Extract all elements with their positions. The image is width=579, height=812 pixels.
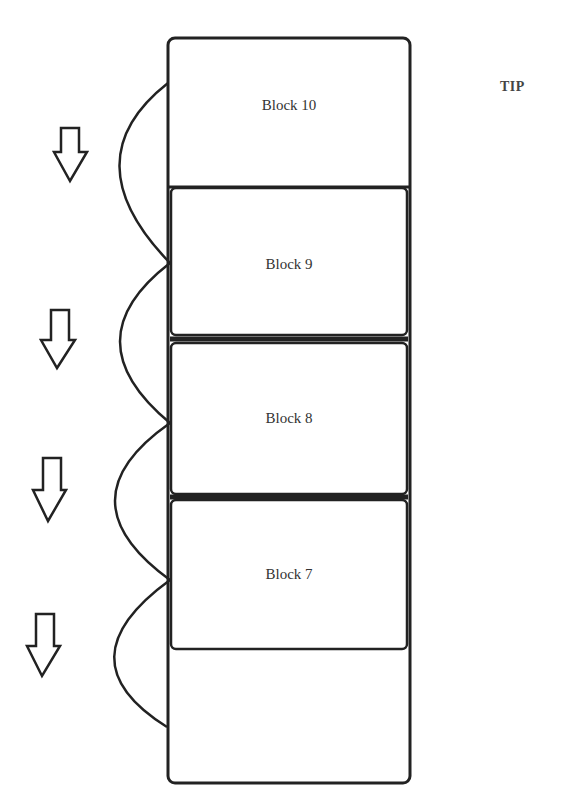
down-arrow-icon bbox=[33, 458, 66, 521]
block-7-label: Block 7 bbox=[170, 566, 408, 583]
curve-4 bbox=[114, 580, 170, 727]
diagram-canvas bbox=[0, 0, 579, 812]
block-8-label: Block 8 bbox=[170, 410, 408, 427]
block-10-label: Block 10 bbox=[170, 97, 408, 114]
tip-label: TIP bbox=[500, 79, 525, 95]
down-arrow-icon bbox=[27, 614, 60, 676]
down-arrow-icon bbox=[41, 310, 75, 368]
down-arrow-icon bbox=[54, 128, 87, 181]
curve-1 bbox=[119, 83, 170, 263]
curve-2 bbox=[120, 263, 170, 423]
block-9-label: Block 9 bbox=[170, 256, 408, 273]
curve-3 bbox=[115, 423, 170, 580]
